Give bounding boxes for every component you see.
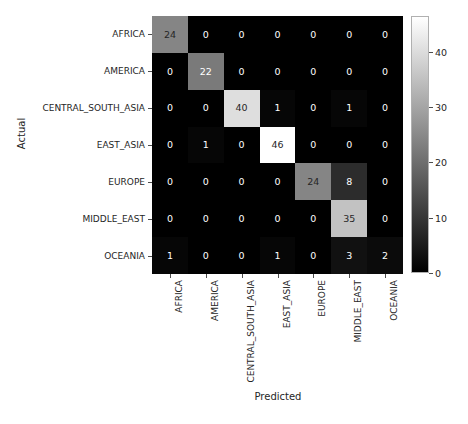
confusion-matrix-figure: Actual Predicted 24000000022000000040101…	[0, 0, 468, 424]
colorbar-tick-labels: 010203040	[0, 0, 468, 424]
colorbar-tick-mark	[429, 107, 433, 108]
colorbar-tick-label: 10	[435, 212, 447, 223]
colorbar-tick-mark	[429, 273, 433, 274]
colorbar-tick-label: 0	[435, 268, 441, 279]
colorbar-tick-label: 40	[435, 46, 447, 57]
colorbar-tick-label: 20	[435, 157, 447, 168]
colorbar-tick-mark	[429, 162, 433, 163]
colorbar-tick-mark	[429, 52, 433, 53]
colorbar-tick-mark	[429, 218, 433, 219]
colorbar-tick-label: 30	[435, 102, 447, 113]
